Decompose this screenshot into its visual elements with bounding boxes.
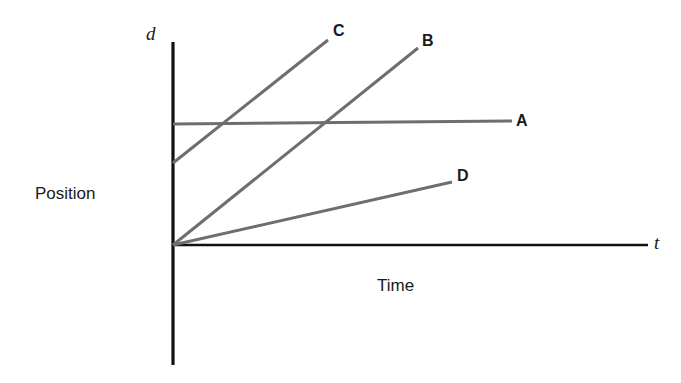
- series-label-d: D: [457, 168, 469, 184]
- y-axis-title: Position: [35, 185, 95, 202]
- plot-area: [0, 0, 681, 383]
- series-label-a: A: [516, 113, 528, 129]
- x-axis-title: Time: [377, 277, 414, 294]
- line-series-C: [173, 40, 328, 163]
- series-label-c: C: [333, 23, 345, 39]
- line-series-D: [173, 182, 452, 245]
- position-time-graph-figure: d t A B C D Position Time: [0, 0, 681, 383]
- x-axis-symbol-label: t: [654, 233, 659, 252]
- line-series-B: [173, 48, 418, 245]
- y-axis-symbol-label: d: [146, 24, 156, 43]
- series-label-b: B: [422, 33, 434, 49]
